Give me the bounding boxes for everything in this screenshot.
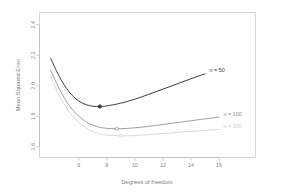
y-axis: 1.61.82.02.22.4 <box>30 21 39 151</box>
plot-frame <box>40 13 256 158</box>
x-tick-label: 12 <box>160 162 166 168</box>
chart-canvas: 1.61.82.02.22.4 6810121416 n = 50n = 100… <box>0 0 282 195</box>
y-tick-label: 2.4 <box>30 21 36 29</box>
x-axis-title: Degrees of freedom <box>121 179 172 185</box>
chart-figure: 1.61.82.02.22.4 6810121416 n = 50n = 100… <box>0 0 282 195</box>
series-2: n = 100 <box>51 71 242 131</box>
series-label-2: n = 100 <box>224 111 242 117</box>
series-label-1: n = 50 <box>210 67 225 73</box>
series-label-3: n = 200 <box>224 123 242 129</box>
y-axis-title: Mean Squared Error <box>15 59 21 112</box>
x-tick-label: 6 <box>77 162 80 168</box>
series-line <box>51 77 219 136</box>
x-tick-label: 14 <box>188 162 194 168</box>
series-minimum-marker <box>98 105 101 108</box>
series-line <box>51 58 205 106</box>
series-3: n = 200 <box>51 77 242 138</box>
x-axis: 6810121416 <box>77 158 222 169</box>
data-series-group: n = 50n = 100n = 200 <box>51 58 242 137</box>
y-tick-label: 1.8 <box>30 113 36 121</box>
y-tick-label: 2.2 <box>30 51 36 59</box>
x-tick-label: 10 <box>132 162 138 168</box>
series-minimum-marker <box>115 127 118 130</box>
x-tick-label: 16 <box>216 162 222 168</box>
series-1: n = 50 <box>51 58 225 108</box>
x-tick-label: 8 <box>105 162 108 168</box>
series-minimum-marker <box>119 134 122 137</box>
y-tick-label: 1.6 <box>30 143 36 151</box>
y-tick-label: 2.0 <box>30 82 36 90</box>
